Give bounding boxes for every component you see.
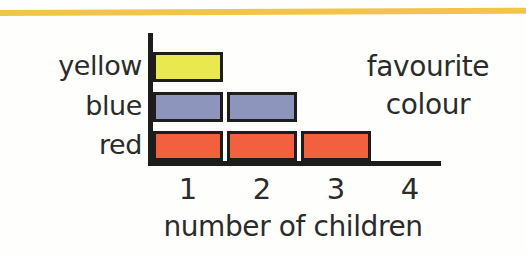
chart-title: favourite colour: [336, 48, 520, 124]
chart-title-line-2: colour: [336, 86, 520, 124]
x-tick-label-3: 3: [301, 172, 371, 206]
chart-page: yellow blue red 1 2 3 4 number of childr…: [0, 0, 526, 255]
x-tick-label-1: 1: [153, 172, 223, 206]
category-label-yellow: yellow: [8, 51, 142, 81]
plot-area: yellow blue red 1 2 3 4 number of childr…: [0, 0, 526, 255]
category-label-red: red: [8, 130, 142, 160]
category-label-blue: blue: [8, 91, 142, 121]
x-tick-label-4: 4: [375, 172, 445, 206]
x-axis-title: number of children: [128, 210, 458, 244]
chart-title-line-1: favourite: [336, 48, 520, 86]
x-tick-label-2: 2: [227, 172, 297, 206]
